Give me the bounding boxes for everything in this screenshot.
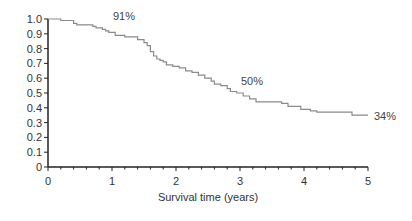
y-tick-label: 0.6 [27,72,42,84]
x-tick-label: 2 [173,175,179,187]
y-tick-label: 0.5 [27,87,42,99]
y-tick-label: 0.3 [27,117,42,129]
annotation-label: 91% [113,10,135,22]
x-tick-label: 1 [109,175,115,187]
y-tick-label: 0.7 [27,57,42,69]
annotation-label: 50% [241,75,263,87]
survival-chart: 00.10.20.30.40.50.60.70.80.91.0 012345 9… [0,0,412,221]
x-tick-label: 0 [45,175,51,187]
annotations: 91%50%34% [113,10,396,121]
x-tick-label: 3 [237,175,243,187]
survival-curve [48,19,368,115]
x-tick-label: 5 [365,175,371,187]
y-axis: 00.10.20.30.40.50.60.70.80.91.0 [27,13,48,173]
y-tick-label: 0.9 [27,28,42,40]
x-axis: 012345 [45,167,371,187]
y-tick-label: 0.2 [27,131,42,143]
annotation-label: 34% [374,110,396,122]
y-tick-label: 0.1 [27,146,42,158]
y-tick-label: 0.4 [27,102,42,114]
y-tick-label: 0.8 [27,43,42,55]
x-axis-title: Survival time (years) [158,191,258,203]
y-tick-label: 0 [36,161,42,173]
y-tick-label: 1.0 [27,13,42,25]
x-tick-label: 4 [301,175,307,187]
